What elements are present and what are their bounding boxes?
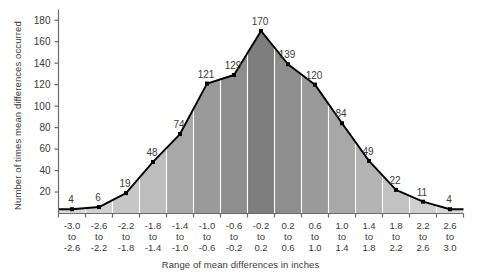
data-marker-4[interactable] [178, 132, 182, 136]
data-marker-10[interactable] [340, 121, 344, 125]
bar-7[interactable] [248, 8, 275, 216]
y-tick-label-80: 80 [39, 122, 51, 133]
data-marker-6[interactable] [232, 73, 236, 77]
x-category-label-3-line-2: -1.4 [145, 242, 161, 253]
data-marker-8[interactable] [286, 62, 290, 66]
data-value-label-8: 139 [279, 49, 296, 60]
x-category-label-13-line-1: to [419, 231, 427, 242]
x-category-label-7-line-2: 0.2 [254, 242, 267, 253]
y-tick-label-60: 60 [39, 143, 51, 154]
x-category-label-6-line-1: to [230, 231, 238, 242]
x-category-label-9-line-2: 1.0 [308, 242, 321, 253]
bar-11[interactable] [356, 8, 383, 216]
bar-4[interactable] [167, 8, 194, 216]
x-category-label-12-line-0: 1.8 [389, 220, 402, 231]
data-marker-7[interactable] [259, 29, 263, 33]
data-marker-5[interactable] [205, 82, 209, 86]
bar-14[interactable] [437, 8, 464, 216]
x-category-label-1-line-0: -2.6 [91, 220, 107, 231]
x-category-label-14-line-2: 3.0 [443, 242, 456, 253]
x-category-label-2-line-2: -1.8 [118, 242, 134, 253]
x-category-label-0-line-2: -2.6 [64, 242, 80, 253]
data-value-label-10: 84 [335, 108, 347, 119]
bar-3[interactable] [140, 8, 167, 216]
x-category-label-13-line-2: 2.6 [416, 242, 429, 253]
histogram-chart: 204060801001201401601804-3.0to-2.66-2.6t… [0, 0, 481, 277]
data-marker-14[interactable] [448, 207, 452, 211]
x-category-label-7-line-1: to [257, 231, 265, 242]
x-category-label-10-line-0: 1.0 [335, 220, 348, 231]
data-marker-3[interactable] [151, 160, 155, 164]
x-axis-title: Range of mean differences in inches [0, 259, 481, 270]
x-category-label-4-line-2: -1.0 [172, 242, 188, 253]
bar-8[interactable] [275, 8, 302, 216]
x-category-label-12-line-2: 2.2 [389, 242, 402, 253]
bar-13[interactable] [410, 8, 437, 216]
data-value-label-13: 11 [417, 187, 428, 198]
x-category-label-8-line-0: 0.2 [281, 220, 294, 231]
bar-5[interactable] [194, 8, 221, 216]
data-value-label-2: 19 [119, 178, 131, 189]
data-value-label-12: 22 [389, 175, 401, 186]
x-category-label-2-line-0: -2.2 [118, 220, 134, 231]
x-category-label-11-line-2: 1.8 [362, 242, 375, 253]
data-value-label-1: 6 [95, 192, 101, 203]
x-category-label-8-line-1: to [284, 231, 292, 242]
bar-1[interactable] [86, 8, 113, 216]
data-marker-1[interactable] [97, 205, 101, 209]
x-category-label-10-line-1: to [338, 231, 346, 242]
x-category-label-7-line-0: -0.2 [253, 220, 269, 231]
y-tick-label-180: 180 [34, 15, 51, 26]
bar-9[interactable] [302, 8, 329, 216]
x-category-label-14-line-1: to [446, 231, 454, 242]
y-tick-label-120: 120 [34, 79, 51, 90]
x-category-label-10-line-2: 1.4 [335, 242, 348, 253]
x-category-label-6-line-0: -0.6 [226, 220, 242, 231]
data-marker-11[interactable] [367, 159, 371, 163]
x-category-label-3-line-1: to [149, 231, 157, 242]
y-tick-label-40: 40 [39, 165, 51, 176]
data-value-label-11: 49 [362, 146, 374, 157]
x-category-label-4-line-0: -1.4 [172, 220, 188, 231]
x-category-label-9-line-1: to [311, 231, 319, 242]
data-value-label-7: 170 [252, 16, 269, 27]
y-tick-label-160: 160 [34, 36, 51, 47]
bar-0[interactable] [59, 8, 86, 216]
x-category-label-4-line-1: to [176, 231, 184, 242]
data-marker-9[interactable] [313, 83, 317, 87]
data-value-label-14: 4 [446, 194, 452, 205]
x-category-label-11-line-1: to [365, 231, 373, 242]
data-marker-2[interactable] [124, 191, 128, 195]
data-value-label-3: 48 [146, 147, 158, 158]
x-category-label-5-line-2: -0.6 [199, 242, 215, 253]
x-category-label-5-line-0: -1.0 [199, 220, 215, 231]
y-tick-label-20: 20 [39, 186, 51, 197]
x-category-label-6-line-2: -0.2 [226, 242, 242, 253]
y-tick-label-140: 140 [34, 58, 51, 69]
y-tick-label-100: 100 [34, 101, 51, 112]
x-category-label-1-line-1: to [95, 231, 103, 242]
x-category-label-8-line-2: 0.6 [281, 242, 294, 253]
data-value-label-4: 74 [173, 119, 185, 130]
data-marker-13[interactable] [421, 200, 425, 204]
x-category-label-0-line-0: -3.0 [64, 220, 80, 231]
x-category-label-1-line-2: -2.2 [91, 242, 107, 253]
x-category-label-11-line-0: 1.4 [362, 220, 375, 231]
x-category-label-5-line-1: to [203, 231, 211, 242]
x-category-label-14-line-0: 2.6 [443, 220, 456, 231]
data-value-label-6: 129 [225, 60, 242, 71]
chart-plot-area: 204060801001201401601804-3.0to-2.66-2.6t… [0, 0, 481, 277]
x-category-label-3-line-0: -1.8 [145, 220, 161, 231]
x-category-label-9-line-0: 0.6 [308, 220, 321, 231]
data-value-label-5: 121 [198, 69, 215, 80]
y-axis-title: Number of times mean differences occurre… [12, 16, 23, 216]
bar-6[interactable] [221, 8, 248, 216]
x-category-label-0-line-1: to [68, 231, 76, 242]
x-category-label-13-line-0: 2.2 [416, 220, 429, 231]
data-value-label-0: 4 [68, 194, 74, 205]
data-marker-0[interactable] [70, 207, 74, 211]
x-category-label-12-line-1: to [392, 231, 400, 242]
data-marker-12[interactable] [394, 188, 398, 192]
data-value-label-9: 120 [306, 70, 323, 81]
x-category-label-2-line-1: to [122, 231, 130, 242]
